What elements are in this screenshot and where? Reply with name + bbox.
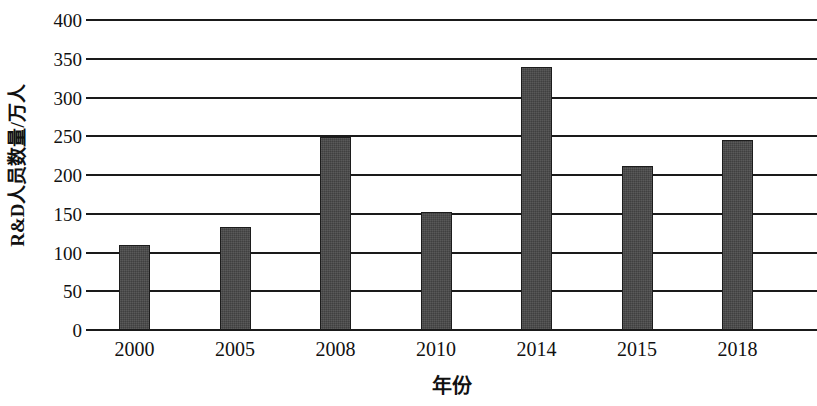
x-tick-label: 2014 <box>517 338 557 361</box>
y-tick-label: 0 <box>28 321 82 340</box>
y-tick-label: 200 <box>28 166 82 185</box>
x-tick-label: 2018 <box>718 338 758 361</box>
bar <box>220 227 251 330</box>
y-tick-label: 400 <box>28 11 82 30</box>
y-tick-label: 100 <box>28 243 82 262</box>
y-tick-label: 150 <box>28 204 82 223</box>
y-axis-title: R&D人员数量/万人 <box>0 0 30 330</box>
bar <box>421 212 452 330</box>
y-axis-title-text: R&D人员数量/万人 <box>2 84 29 247</box>
x-tick-label: 2015 <box>617 338 657 361</box>
y-tick-label: 250 <box>28 127 82 146</box>
x-tick-label: 2000 <box>115 338 155 361</box>
bar <box>320 137 351 330</box>
x-tick-label: 2008 <box>316 338 356 361</box>
bar <box>521 67 552 330</box>
bar <box>119 245 150 330</box>
bar <box>622 166 653 330</box>
x-axis-tick-labels: 2000200520082010201420152018 <box>86 338 817 368</box>
x-axis-title: 年份 <box>86 370 817 399</box>
x-axis-line <box>86 329 817 331</box>
y-tick-label: 50 <box>28 282 82 301</box>
bars-group <box>86 0 817 332</box>
x-tick-label: 2005 <box>215 338 255 361</box>
bar <box>722 140 753 330</box>
y-tick-label: 300 <box>28 88 82 107</box>
y-tick-label: 350 <box>28 49 82 68</box>
x-tick-label: 2010 <box>416 338 456 361</box>
plot-area <box>86 0 817 332</box>
bar-chart: R&D人员数量/万人 050100150200250300350400 2000… <box>0 0 817 406</box>
y-axis-tick-labels: 050100150200250300350400 <box>28 0 82 340</box>
